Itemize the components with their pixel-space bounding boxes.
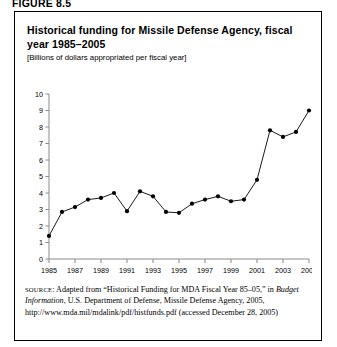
x-axis-tick-label: 1987	[67, 266, 83, 275]
y-axis-tick-label: 10	[35, 90, 43, 99]
source-note-part1: : Adapted from “Historical Funding for M…	[52, 285, 276, 294]
data-point-marker	[268, 128, 272, 132]
data-point-marker	[99, 196, 103, 200]
x-axis-tick-label: 2005	[301, 266, 312, 275]
data-point-marker	[177, 211, 181, 215]
figure-panel: Historical funding for Missile Defense A…	[14, 11, 322, 341]
chart-units-note: [Billions of dollars appropriated per fi…	[27, 53, 312, 63]
data-point-marker	[216, 194, 220, 198]
data-point-marker	[112, 191, 116, 195]
y-axis-tick-label: 2	[39, 222, 43, 231]
x-axis-tick-label: 1993	[145, 266, 161, 275]
data-point-marker	[60, 210, 64, 214]
page-title: Historical funding for Missile Defense A…	[27, 24, 312, 51]
data-point-marker	[138, 189, 142, 193]
data-point-marker	[281, 135, 285, 139]
x-axis-tick-label: 1989	[93, 266, 109, 275]
source-note-part2: , U.S. Department of Defense, Missile De…	[25, 296, 278, 316]
y-axis-tick-label: 8	[39, 123, 43, 132]
x-axis-tick-label: 2003	[275, 266, 291, 275]
x-axis-tick-label: 1995	[171, 266, 187, 275]
data-point-markers	[47, 108, 311, 238]
data-point-marker	[203, 198, 207, 202]
source-note: SOURCE: Adapted from “Historical Funding…	[25, 284, 317, 318]
y-axis-tick-label: 6	[39, 156, 43, 165]
y-axis: 012345678910	[35, 90, 49, 264]
data-point-marker	[294, 130, 298, 134]
y-axis-tick-label: 9	[39, 106, 43, 115]
x-axis: 1985198719891991199319951997199920012003…	[41, 259, 312, 275]
data-point-marker	[242, 198, 246, 202]
data-point-marker	[164, 210, 168, 214]
x-axis-tick-label: 1999	[223, 266, 239, 275]
x-axis-tick-label: 1985	[41, 266, 57, 275]
chart-canvas: 012345678910 198519871989199119931995199…	[27, 87, 312, 287]
data-point-marker	[255, 178, 259, 182]
data-point-marker	[125, 209, 129, 213]
data-point-marker	[86, 198, 90, 202]
x-axis-tick-label: 2001	[249, 266, 265, 275]
y-axis-tick-label: 4	[39, 189, 43, 198]
y-axis-tick-label: 1	[39, 238, 43, 247]
x-axis-tick-label: 1997	[197, 266, 213, 275]
source-note-prefix: SOURCE	[25, 286, 52, 293]
y-axis-tick-label: 0	[39, 255, 43, 264]
y-axis-tick-label: 7	[39, 139, 43, 148]
data-point-marker	[151, 194, 155, 198]
x-axis-tick-label: 1991	[119, 266, 135, 275]
data-point-marker	[229, 199, 233, 203]
y-axis-tick-label: 3	[39, 205, 43, 214]
y-axis-tick-label: 5	[39, 172, 43, 181]
line-chart: 012345678910 198519871989199119931995199…	[27, 87, 312, 287]
data-point-marker	[47, 234, 51, 238]
figure-label: FIGURE 8.5	[12, 0, 71, 9]
data-point-marker	[190, 202, 194, 206]
data-point-marker	[73, 205, 77, 209]
data-point-marker	[307, 108, 311, 112]
